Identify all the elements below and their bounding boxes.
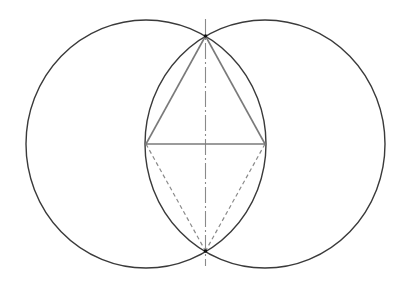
bottom-intersection-point [204, 249, 208, 253]
vesica-piscis-diagram [0, 0, 410, 286]
top-intersection-point [204, 34, 208, 38]
